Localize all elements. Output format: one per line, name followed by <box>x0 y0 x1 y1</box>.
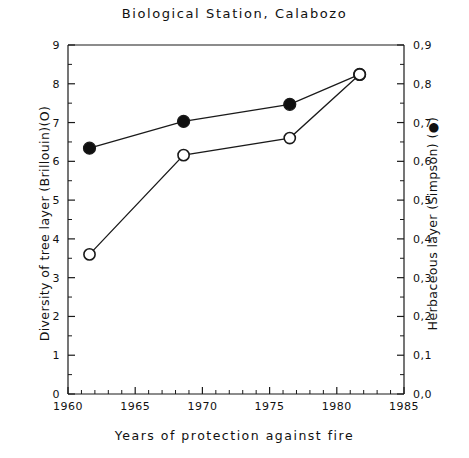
svg-text:0: 0 <box>53 388 61 401</box>
data-point-filled-circle <box>84 142 96 154</box>
svg-text:0,0: 0,0 <box>413 388 432 401</box>
chart-figure: Biological Station, Calabozo 19601965197… <box>0 0 469 458</box>
svg-text:4: 4 <box>53 233 61 246</box>
svg-text:1960: 1960 <box>53 400 83 413</box>
data-point-open-circle <box>354 69 365 80</box>
svg-text:2: 2 <box>53 310 61 323</box>
svg-text:1: 1 <box>53 349 61 362</box>
svg-text:0,9: 0,9 <box>413 39 432 52</box>
svg-text:1985: 1985 <box>389 400 419 413</box>
data-point-filled-circle <box>178 115 190 127</box>
svg-text:9: 9 <box>53 39 61 52</box>
x-axis-label: Years of protection against fire <box>0 428 469 443</box>
svg-text:1980: 1980 <box>322 400 352 413</box>
svg-text:7: 7 <box>53 117 61 130</box>
y-axis-label-left: Diversity of tree layer (Brillouin)(O) <box>37 74 52 374</box>
svg-text:8: 8 <box>53 78 61 91</box>
svg-text:1970: 1970 <box>187 400 217 413</box>
plot-area: 19601965197019751980198501234567890,00,1… <box>0 0 469 458</box>
svg-text:1975: 1975 <box>255 400 285 413</box>
svg-text:1965: 1965 <box>120 400 150 413</box>
svg-text:5: 5 <box>53 194 61 207</box>
y-axis-label-right: Herbaceous layer (Simpson) (●) <box>425 74 440 374</box>
series-line-1 <box>90 74 360 254</box>
svg-text:6: 6 <box>53 155 61 168</box>
data-point-filled-circle <box>284 98 296 110</box>
axes-frame <box>68 45 404 394</box>
data-point-open-circle <box>84 249 95 260</box>
svg-text:3: 3 <box>53 272 61 285</box>
axis-ticks <box>68 45 404 394</box>
data-series <box>84 68 366 260</box>
axis-tick-labels: 19601965197019751980198501234567890,00,1… <box>53 39 433 413</box>
data-point-open-circle <box>178 150 189 161</box>
data-point-open-circle <box>284 132 295 143</box>
